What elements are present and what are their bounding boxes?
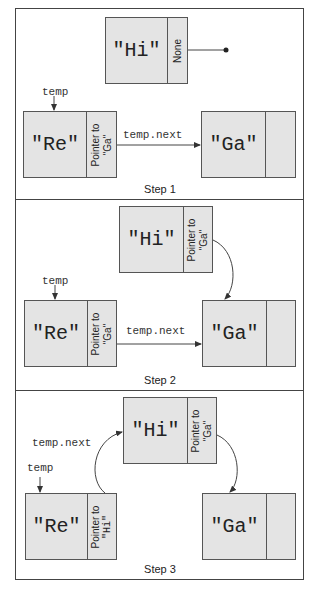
node-data: "Re" (25, 301, 88, 366)
step-divider-2 (15, 390, 304, 391)
node-pointer: Pointer to"Ga" (184, 207, 212, 272)
step1-temp-label: temp (42, 86, 68, 98)
step2-node-ga: "Ga" (202, 300, 296, 367)
node-data: "Hi" (106, 18, 168, 83)
step3-node-hi: "Hi" Pointer to"Ga" (123, 397, 217, 464)
step3-temp-label: temp (27, 462, 53, 474)
node-data: "Hi" (124, 398, 188, 463)
step2-temp-next-label: temp.next (126, 325, 185, 337)
node-pointer-empty (266, 112, 295, 177)
step1-temp-next-label: temp.next (123, 129, 182, 141)
pointer-text: Pointer to (186, 218, 198, 261)
pointer-text: None (172, 39, 183, 63)
step-divider-1 (15, 199, 304, 200)
step2-node-re: "Re" Pointer to"Ga" (24, 300, 117, 367)
node-pointer: None (168, 18, 187, 83)
pointer-target: "Ga" (202, 409, 214, 452)
node-pointer: Pointer to"Ga" (87, 112, 116, 177)
step2-temp-label: temp (42, 275, 68, 287)
step1-node-hi: "Hi" None (105, 17, 188, 84)
node-data: "Ga" (202, 112, 266, 177)
pointer-target: "Hi" (102, 505, 114, 548)
node-pointer-empty (267, 494, 295, 559)
node-data: "Hi" (120, 207, 184, 272)
node-data: "Re" (26, 494, 88, 559)
node-pointer: Pointer to"Ga" (88, 301, 116, 366)
step3-caption: Step 3 (130, 563, 190, 575)
pointer-target: "Ga" (102, 312, 114, 355)
node-data: "Re" (24, 112, 87, 177)
pointer-text: Pointer to (190, 409, 202, 452)
pointer-target: "Ga" (102, 123, 114, 166)
step1-node-ga: "Ga" (201, 111, 296, 178)
pointer-text: Pointer to (90, 505, 102, 548)
node-pointer-empty (267, 301, 295, 366)
pointer-target: "Ga" (198, 218, 210, 261)
node-data: "Ga" (203, 494, 267, 559)
pointer-text: Pointer to (90, 312, 102, 355)
step3-node-re: "Re" Pointer to"Hi" (25, 493, 117, 560)
node-pointer: Pointer to"Ga" (188, 398, 216, 463)
pointer-text: Pointer to (90, 123, 102, 166)
step2-node-hi: "Hi" Pointer to"Ga" (119, 206, 213, 273)
step3-node-ga: "Ga" (202, 493, 296, 560)
step1-node-re: "Re" Pointer to"Ga" (23, 111, 117, 178)
node-pointer: Pointer to"Hi" (88, 494, 116, 559)
step2-caption: Step 2 (130, 374, 190, 386)
step1-caption: Step 1 (130, 183, 190, 195)
step3-temp-next-label: temp.next (32, 437, 91, 449)
node-data: "Ga" (203, 301, 267, 366)
